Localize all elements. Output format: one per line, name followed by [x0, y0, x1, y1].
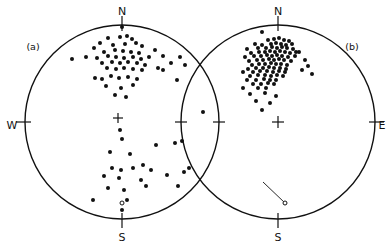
data-point-filled: [286, 55, 290, 59]
data-point-filled: [280, 54, 284, 58]
stereonet-figure: NSW(a)NES(b): [0, 0, 391, 244]
data-point-filled: [130, 37, 134, 41]
data-point-filled: [282, 58, 286, 62]
data-point-filled: [268, 101, 272, 105]
data-point-filled: [267, 65, 271, 69]
data-point-filled: [260, 43, 264, 47]
data-point-filled: [119, 168, 123, 172]
data-point-filled: [113, 93, 117, 97]
data-point-filled: [113, 48, 117, 52]
data-point-filled: [253, 42, 257, 46]
data-point-filled: [263, 73, 267, 77]
data-point-filled: [134, 41, 138, 45]
data-point-filled: [269, 61, 273, 65]
data-point-filled: [123, 42, 127, 46]
stereonet-panel-b: NES(b): [175, 5, 386, 244]
data-point-filled: [268, 49, 272, 53]
data-point-filled: [263, 62, 267, 66]
data-point-filled: [93, 76, 97, 80]
axis-label-s-b: S: [275, 231, 282, 244]
data-segment: [263, 182, 285, 203]
panel-caption-b: (b): [345, 41, 358, 52]
data-point-filled: [274, 41, 278, 45]
data-point-filled: [183, 63, 187, 67]
data-point-filled: [283, 70, 287, 74]
data-point-filled: [131, 166, 135, 170]
data-point-filled: [143, 63, 147, 67]
data-point-filled: [176, 184, 180, 188]
data-point-filled: [285, 63, 289, 67]
data-point-filled: [256, 46, 260, 50]
data-point-filled: [122, 66, 126, 70]
data-point-filled: [125, 198, 129, 202]
data-point-filled: [278, 49, 282, 53]
data-point-filled: [137, 51, 141, 55]
data-point-filled: [248, 74, 252, 78]
data-point-filled: [306, 64, 310, 68]
data-point-filled: [269, 74, 273, 78]
data-point-filled: [125, 34, 129, 38]
data-point-filled: [187, 166, 191, 170]
axis-label-s-a: S: [119, 231, 126, 244]
data-point-filled: [265, 53, 269, 57]
data-point-filled: [264, 46, 268, 50]
data-point-filled: [154, 143, 158, 147]
data-point-filled: [270, 45, 274, 49]
data-point-filled: [246, 67, 250, 71]
data-point-filled: [175, 78, 179, 82]
data-point-filled: [100, 77, 104, 81]
data-point-filled: [241, 86, 245, 90]
stereonet-svg: NSW(a)NES(b): [0, 0, 391, 244]
data-point-filled: [92, 46, 96, 50]
data-point-filled: [289, 59, 293, 63]
data-point-filled: [283, 50, 287, 54]
data-point-filled: [141, 163, 145, 167]
data-point-filled: [104, 84, 108, 88]
data-point-filled: [258, 69, 262, 73]
data-point-filled: [245, 78, 249, 82]
data-point-filled: [139, 57, 143, 61]
data-point-filled: [272, 58, 276, 62]
data-point-filled: [259, 54, 263, 58]
data-point-filled: [262, 77, 266, 81]
data-point-filled: [303, 58, 307, 62]
data-point-filled: [274, 94, 278, 98]
data-point-filled: [129, 50, 133, 54]
data-point-filled: [106, 186, 110, 190]
data-point-filled: [264, 86, 268, 90]
data-point-filled: [149, 168, 153, 172]
data-point-filled: [260, 30, 264, 34]
data-point-filled: [241, 70, 245, 74]
data-point-filled: [243, 55, 247, 59]
data-point-filled: [251, 82, 255, 86]
data-point-filled: [131, 83, 135, 87]
data-point-filled: [122, 56, 126, 60]
data-point-filled: [108, 150, 112, 154]
data-point-filled: [277, 36, 281, 40]
data-point-filled: [118, 61, 122, 65]
data-point-filled: [135, 61, 139, 65]
data-point-filled: [270, 54, 274, 58]
data-point-filled: [257, 50, 261, 54]
stereonet-panel-a: NSW(a): [7, 5, 225, 244]
data-point-filled: [274, 62, 278, 66]
data-point-filled: [250, 63, 254, 67]
data-point-filled: [109, 74, 113, 78]
data-point-filled: [277, 57, 281, 61]
data-point-filled: [247, 59, 251, 63]
data-point-filled: [266, 81, 270, 85]
data-point-filled: [110, 60, 114, 64]
data-point-filled: [272, 37, 276, 41]
data-point-filled: [120, 25, 124, 29]
data-point-filled: [120, 137, 124, 141]
data-point-filled: [291, 47, 295, 51]
data-point-filled: [201, 110, 205, 114]
data-point-open: [283, 201, 287, 205]
data-point-filled: [118, 128, 122, 132]
axis-label-e-b: E: [379, 119, 386, 132]
data-point-filled: [265, 69, 269, 73]
data-point-filled: [153, 48, 157, 52]
data-point-filled: [139, 178, 143, 182]
data-point-filled: [169, 61, 173, 65]
data-point-filled: [249, 51, 253, 55]
